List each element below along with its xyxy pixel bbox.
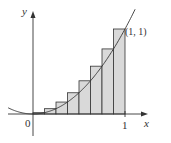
rectangle — [68, 93, 80, 114]
upper-sum-rectangles — [33, 29, 125, 114]
point-label: (1, 1) — [125, 26, 147, 38]
riemann-sum-diagram: y x 0 1 (1, 1) — [0, 0, 171, 143]
rectangle — [79, 81, 91, 114]
y-axis-label: y — [21, 5, 27, 17]
x-axis-label: x — [143, 117, 149, 129]
y-axis-arrow-icon — [31, 11, 36, 18]
x-tick-label: 1 — [122, 119, 128, 131]
origin-label: 0 — [25, 117, 31, 129]
x-axis-arrow-icon — [141, 112, 148, 117]
rectangle — [114, 29, 126, 114]
